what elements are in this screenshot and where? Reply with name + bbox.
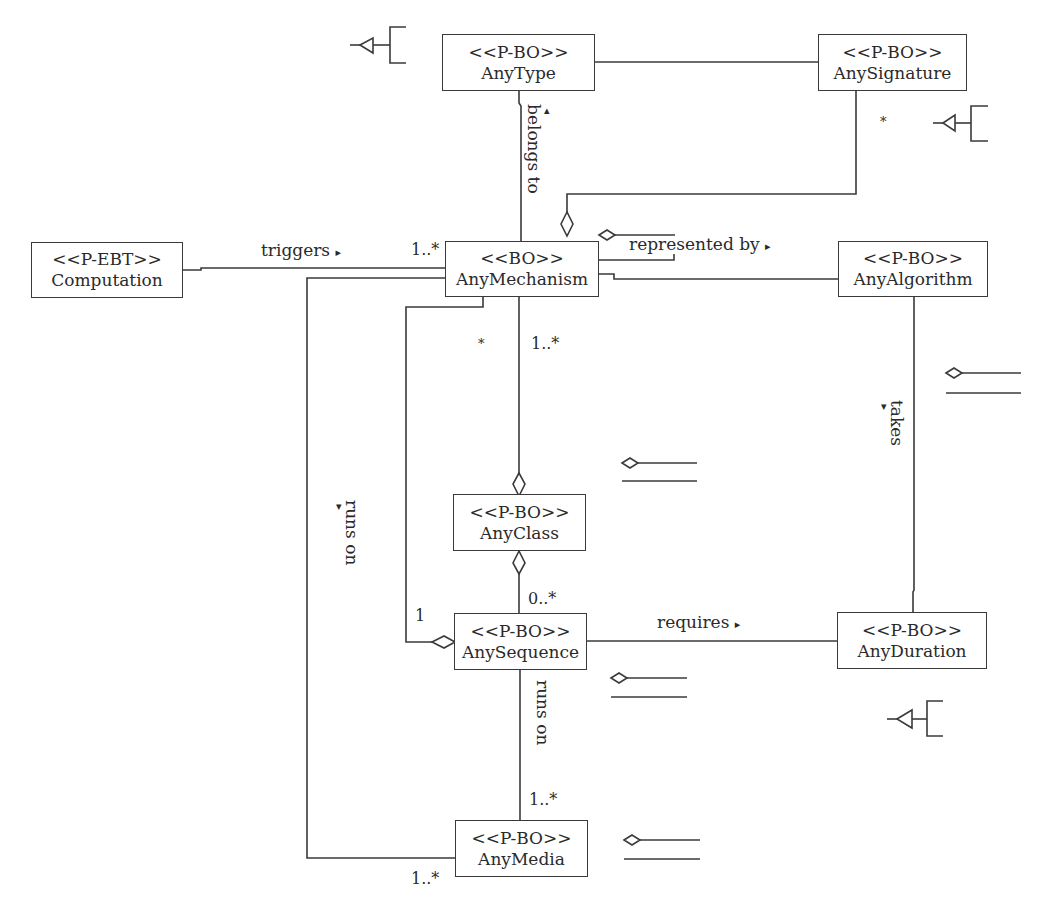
assoc-represented-by xyxy=(599,274,845,279)
class-anysignature[interactable]: <<P-BO>> AnySignature xyxy=(818,34,967,91)
class-anytype[interactable]: <<P-BO>> AnyType xyxy=(442,34,595,91)
class-name: AnySignature xyxy=(834,63,952,84)
class-name: AnyMedia xyxy=(478,849,565,870)
multiplicity-sequence-media: 1..* xyxy=(529,790,557,809)
assoc-belongs-to xyxy=(519,90,521,242)
stereotype: <<P-EBT>> xyxy=(52,249,161,270)
stereotype: <<P-BO>> xyxy=(472,828,572,849)
label-takes: takes ▾ xyxy=(881,400,907,446)
label-represented-by: represented by ▸ xyxy=(629,234,771,254)
class-computation[interactable]: <<P-EBT>> Computation xyxy=(31,242,183,298)
arrow-down-icon: ▾ xyxy=(336,500,342,513)
label-requires: requires ▸ xyxy=(657,612,740,632)
class-name: AnyDuration xyxy=(857,641,966,662)
generalization-icon xyxy=(933,106,988,141)
aggregation-legend-icon xyxy=(611,673,687,697)
stereotype: <<P-BO>> xyxy=(471,621,571,642)
multiplicity-class-sequence: 0..* xyxy=(528,589,556,608)
class-name: AnyClass xyxy=(480,523,559,544)
class-anyduration[interactable]: <<P-BO>> AnyDuration xyxy=(837,612,987,669)
multiplicity-triggers: 1..* xyxy=(411,240,439,259)
label-belongs-to: ▴ belongs to xyxy=(524,104,550,194)
assoc-represented-by-aux xyxy=(599,254,674,260)
multiplicity-sequence-one: 1 xyxy=(415,606,425,625)
class-anyclass[interactable]: <<P-BO>> AnyClass xyxy=(453,494,586,551)
class-anymechanism[interactable]: <<BO>> AnyMechanism xyxy=(445,241,599,297)
multiplicity-mechanism-star: * xyxy=(478,336,485,351)
assoc-triggers xyxy=(182,268,446,270)
arrow-down-icon: ▾ xyxy=(881,400,887,413)
aggregation-legend-icon xyxy=(624,835,700,859)
class-name: Computation xyxy=(51,270,163,291)
multiplicity-mechanism-class: 1..* xyxy=(531,334,559,353)
stereotype: <<BO>> xyxy=(480,248,564,269)
stereotype: <<P-BO>> xyxy=(862,620,962,641)
aggregation-diamond xyxy=(432,636,455,648)
arrow-right-icon: ▸ xyxy=(765,240,771,253)
class-anyalgorithm[interactable]: <<P-BO>> AnyAlgorithm xyxy=(838,241,988,297)
arrow-up-icon: ▴ xyxy=(544,104,550,117)
class-anymedia[interactable]: <<P-BO>> AnyMedia xyxy=(455,820,588,877)
stereotype: <<P-BO>> xyxy=(863,248,963,269)
label-triggers: triggers ▸ xyxy=(261,240,341,260)
class-name: AnyType xyxy=(481,63,556,84)
aggregation-diamond xyxy=(513,551,525,574)
assoc-runs-on-mechanism-media xyxy=(307,278,455,858)
arrow-right-icon: ▸ xyxy=(735,618,741,631)
class-name: AnyMechanism xyxy=(456,269,588,290)
class-name: AnyAlgorithm xyxy=(853,269,972,290)
aggregation-diamond xyxy=(513,473,525,496)
class-anysequence[interactable]: <<P-BO>> AnySequence xyxy=(454,613,587,670)
assoc-signature-mechanism xyxy=(567,90,856,212)
assoc-mechanism-sequence xyxy=(406,295,483,642)
stereotype: <<P-BO>> xyxy=(843,42,943,63)
label-runs-on-left: runs on ▾ xyxy=(336,500,362,565)
arrow-right-icon: ▸ xyxy=(335,246,341,259)
label-runs-on-center: runs on xyxy=(533,680,553,745)
aggregation-legend-icon xyxy=(622,458,697,481)
generalization-icon xyxy=(887,701,943,736)
uml-diagram: <<P-BO>> AnyType <<P-BO>> AnySignature <… xyxy=(0,0,1050,909)
aggregation-diamond xyxy=(561,212,573,236)
class-name: AnySequence xyxy=(462,642,579,663)
generalization-icon xyxy=(350,27,406,63)
assoc-takes xyxy=(913,296,914,613)
multiplicity-media-left: 1..* xyxy=(411,869,439,888)
aggregation-legend-icon xyxy=(946,368,1021,393)
stereotype: <<P-BO>> xyxy=(469,42,569,63)
stereotype: <<P-BO>> xyxy=(470,502,570,523)
multiplicity-signature: * xyxy=(880,114,887,129)
